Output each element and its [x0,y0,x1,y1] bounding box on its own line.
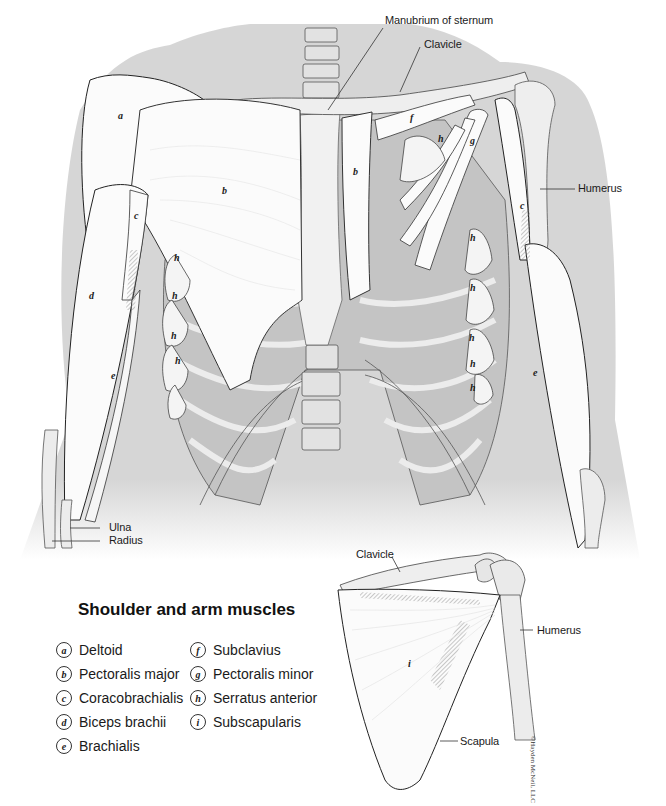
marker-serratus-anterior: h [470,282,476,293]
label-clavicle: Clavicle [424,38,462,50]
legend-item-biceps-brachii: d Biceps brachii [56,710,183,734]
legend-item-coracobrachialis: c Coracobrachialis [56,686,183,710]
legend-column-1: a Deltoid b Pectoralis major c Coracobra… [56,638,183,758]
marker-coracobrachialis-left: c [134,210,138,221]
marker-serratus-anterior: h [470,382,476,393]
legend-item-deltoid: a Deltoid [56,638,183,662]
marker-pectoralis-major-right: b [353,166,358,177]
marker-coracobrachialis-right: c [520,200,524,211]
marker-serratus-anterior: h [438,133,444,144]
marker-brachialis-right: e [533,367,537,378]
letter-circle-icon: b [56,666,72,682]
marker-serratus-anterior: h [174,252,180,263]
legend-item-subscapularis: i Subscapularis [190,710,317,734]
label-ulna: Ulna [109,521,131,533]
letter-circle-icon: h [190,690,206,706]
letter-circle-icon: e [56,738,72,754]
label-humerus: Humerus [578,182,622,194]
inset-label-humerus: Humerus [537,624,581,636]
marker-deltoid: a [118,110,123,121]
label-manubrium-of-sternum: Manubrium of sternum [385,14,493,26]
legend-item-brachialis: e Brachialis [56,734,183,758]
scapula-inset [338,553,535,789]
marker-serratus-anterior: h [470,358,476,369]
marker-pectoralis-major-left: b [222,185,227,196]
letter-circle-icon: d [56,714,72,730]
inset-label-clavicle: Clavicle [356,548,394,560]
marker-subscapularis: i [408,658,411,669]
marker-serratus-anterior: h [470,232,476,243]
letter-circle-icon: f [190,642,206,658]
marker-subclavius: f [410,112,413,123]
inset-label-scapula: Scapula [460,735,499,747]
legend-title: Shoulder and arm muscles [78,600,295,620]
legend-item-subclavius: f Subclavius [190,638,317,662]
legend-column-2: f Subclavius g Pectoralis minor h Serrat… [190,638,317,734]
marker-serratus-anterior: h [172,290,178,301]
letter-circle-icon: g [190,666,206,682]
label-radius: Radius [109,534,143,546]
legend-item-serratus-anterior: h Serratus anterior [190,686,317,710]
letter-circle-icon: i [190,714,206,730]
sternum [298,112,342,345]
marker-serratus-anterior: h [469,332,475,343]
copyright-notice: ©Hayden McNeil, LLC [529,736,537,803]
marker-biceps-brachii: d [89,290,94,301]
letter-circle-icon: a [56,642,72,658]
legend-item-pectoralis-major: b Pectoralis major [56,662,183,686]
marker-serratus-anterior: h [175,355,181,366]
marker-pectoralis-minor: g [470,135,475,146]
letter-circle-icon: c [56,690,72,706]
marker-brachialis-left: e [111,370,115,381]
marker-serratus-anterior: h [171,330,177,341]
legend-item-pectoralis-minor: g Pectoralis minor [190,662,317,686]
